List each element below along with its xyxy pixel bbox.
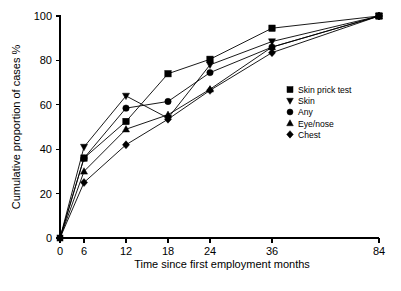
legend-marker xyxy=(287,87,293,93)
data-point-marker xyxy=(123,105,129,111)
chart-container: 020406080100 061218243684 Skin prick tes… xyxy=(0,0,401,291)
x-tick-label: 6 xyxy=(81,245,87,257)
y-tick-label: 60 xyxy=(40,99,52,111)
data-point-marker xyxy=(81,155,87,161)
legend-label: Skin prick test xyxy=(298,85,352,95)
x-tick-label: 12 xyxy=(120,245,132,257)
data-point-marker xyxy=(269,25,275,31)
data-point-marker xyxy=(207,56,213,62)
x-tick-label: 18 xyxy=(162,245,174,257)
x-tick-label: 36 xyxy=(266,245,278,257)
legend-marker xyxy=(287,109,293,115)
x-tick-label: 24 xyxy=(204,245,216,257)
legend-label: Skin xyxy=(298,96,315,106)
x-tick-label: 84 xyxy=(373,245,385,257)
data-point-marker xyxy=(207,69,213,75)
y-axis-title: Cumulative proportion of cases % xyxy=(10,45,22,210)
line-chart: 020406080100 061218243684 Skin prick tes… xyxy=(0,0,401,291)
legend-label: Any xyxy=(298,107,314,117)
data-point-marker xyxy=(165,98,171,104)
y-tick-label: 40 xyxy=(40,143,52,155)
y-tick-label: 80 xyxy=(40,54,52,66)
legend-label: Chest xyxy=(298,130,321,140)
origin-marker xyxy=(57,235,63,241)
x-axis-title: Time since first employment months xyxy=(134,258,310,270)
legend-label: Eye/nose xyxy=(298,119,334,129)
y-tick-label: 100 xyxy=(34,10,52,22)
x-tick-label: 0 xyxy=(57,245,63,257)
data-point-marker xyxy=(165,71,171,77)
y-tick-label: 20 xyxy=(40,188,52,200)
y-tick-label: 0 xyxy=(46,232,52,244)
data-point-marker xyxy=(123,118,129,124)
